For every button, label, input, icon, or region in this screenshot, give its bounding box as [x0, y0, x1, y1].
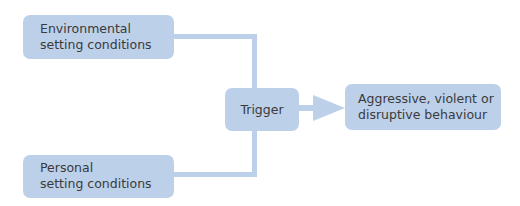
node-label: Aggressive, violent or disruptive behavi…: [358, 91, 501, 123]
node-label: Personal setting conditions: [40, 160, 174, 192]
node-trigger: Trigger: [225, 88, 299, 131]
connector-personal-vertical: [252, 130, 257, 177]
connector-env-horizontal: [173, 34, 257, 39]
node-environmental-setting-conditions: Environmental setting conditions: [23, 15, 174, 59]
arrow-trigger-to-behaviour-icon: [298, 93, 346, 123]
node-aggressive-behaviour: Aggressive, violent or disruptive behavi…: [345, 84, 501, 130]
connector-env-vertical: [252, 34, 257, 89]
connector-personal-horizontal: [173, 172, 257, 177]
node-label: Environmental setting conditions: [40, 21, 174, 53]
node-label: Trigger: [240, 102, 283, 118]
node-personal-setting-conditions: Personal setting conditions: [23, 155, 174, 198]
